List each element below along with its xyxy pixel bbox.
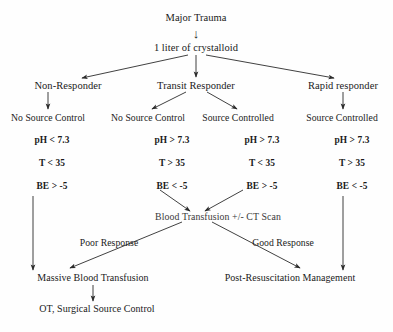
edge-col2-to-transfusion: [160, 190, 190, 211]
node-one-liter-crystalloid: 1 liter of crystalloid: [154, 42, 238, 53]
lab-be-col2: BE < -5: [156, 182, 187, 192]
lab-be-col1: BE > -5: [36, 182, 67, 192]
trauma-resuscitation-flowchart: Major Trauma ↓ 1 liter of crystalloid No…: [0, 0, 393, 332]
down-arrow-icon: ↓: [193, 27, 200, 40]
lab-be-col3: BE > -5: [246, 182, 277, 192]
lab-ph-col3: pH > 7.3: [244, 136, 279, 146]
edge-crystalloid-to-non-responder: [82, 55, 188, 78]
edge-transit-responder-to-col2: [152, 92, 186, 109]
lab-be-col4: BE < -5: [336, 182, 367, 192]
header-source-control-col2: No Source Control: [111, 113, 185, 123]
lab-ph-col2: pH > 7.3: [154, 136, 189, 146]
edge-label-good-response: Good Response: [252, 238, 314, 248]
node-ot-surgical-source-control: OT, Surgical Source Control: [39, 304, 154, 315]
header-source-control-col1: No Source Control: [11, 113, 85, 123]
lab-temp-col3: T < 35: [249, 159, 275, 169]
lab-ph-col1: pH < 7.3: [34, 136, 69, 146]
node-rapid-responder: Rapid responder: [308, 80, 378, 91]
node-transit-responder: Transit Responder: [157, 80, 235, 91]
node-blood-transfusion-ct-scan: Blood Transfusion +/- CT Scan: [155, 212, 281, 222]
edge-col3-to-transfusion: [205, 190, 243, 211]
node-major-trauma: Major Trauma: [166, 12, 227, 23]
header-source-control-col3: Source Controlled: [202, 113, 274, 123]
edge-crystalloid-to-rapid-responder: [206, 55, 334, 78]
node-post-resuscitation-management: Post-Resuscitation Management: [225, 273, 356, 284]
node-non-responder: Non-Responder: [34, 80, 101, 91]
header-source-control-col4: Source Controlled: [306, 113, 378, 123]
lab-temp-col2: T > 35: [159, 159, 185, 169]
node-massive-blood-transfusion: Massive Blood Transfusion: [37, 273, 148, 284]
lab-temp-col4: T > 35: [339, 159, 365, 169]
lab-temp-col1: T < 35: [39, 159, 65, 169]
edge-label-poor-response: Poor Response: [80, 238, 139, 248]
edge-transit-responder-to-col3: [207, 92, 237, 109]
lab-ph-col4: pH > 7.3: [334, 136, 369, 146]
